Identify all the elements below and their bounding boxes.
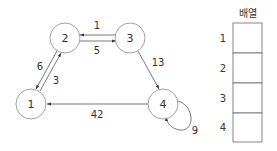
array-index: 2	[220, 63, 226, 74]
array-cell	[233, 53, 262, 83]
node-label: 3	[127, 32, 134, 45]
node-1: 1	[16, 89, 46, 119]
array-index: 3	[220, 93, 226, 104]
node-label: 4	[160, 98, 167, 111]
array-title: 배열	[239, 8, 257, 19]
edge-4-to-1: 42	[47, 104, 149, 120]
array-cell	[233, 113, 262, 142]
array-table: 배열 1 2 3 4	[220, 8, 262, 142]
edge-2-to-3: 5	[80, 41, 116, 56]
node-4: 4	[148, 89, 178, 119]
edge-3-to-4: 13	[138, 51, 164, 89]
edge-weight: 9	[192, 125, 198, 136]
array-index: 1	[220, 33, 226, 44]
edge-weight: 3	[53, 75, 59, 86]
node-3: 3	[115, 23, 145, 53]
edge-weight: 1	[94, 20, 100, 31]
edge-weight: 6	[37, 61, 43, 72]
node-label: 1	[28, 98, 35, 111]
node-label: 2	[62, 32, 69, 45]
array-cell	[233, 23, 262, 53]
graph-diagram: 1 5 6 3 13 42 9 1 2 3 4 배열	[0, 0, 277, 151]
edge-weight: 42	[91, 109, 104, 120]
edge-weight: 5	[94, 45, 100, 56]
array-cell	[233, 83, 262, 113]
node-2: 2	[50, 23, 80, 53]
edge-weight: 13	[152, 57, 165, 68]
array-index: 4	[220, 122, 226, 133]
edge-3-to-2: 1	[80, 20, 116, 35]
edge-1-to-2: 3	[40, 53, 61, 91]
